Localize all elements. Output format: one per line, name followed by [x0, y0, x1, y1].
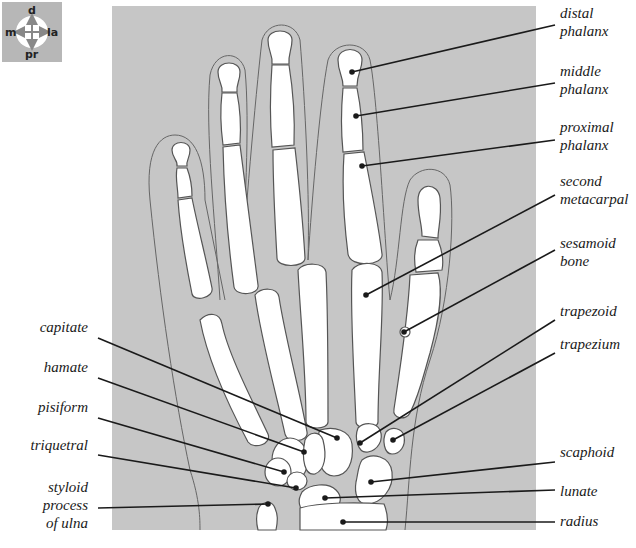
label-trapezium: trapezium [560, 335, 620, 353]
label-line: radius [560, 512, 598, 530]
label-styloid-process-of-ulna: styloid process of ulna [43, 478, 88, 532]
label-line: phalanx [560, 80, 608, 98]
label-line: hamate [44, 358, 88, 376]
label-line: second [560, 172, 628, 190]
label-line: lunate [560, 482, 598, 500]
label-second-metacarpal: second metacarpal [560, 172, 628, 208]
label-proximal-phalanx: proximal phalanx [560, 118, 614, 154]
label-lunate: lunate [560, 482, 598, 500]
label-middle-phalanx: middle phalanx [560, 62, 608, 98]
label-line: styloid [43, 478, 88, 496]
label-pisiform: pisiform [38, 398, 88, 416]
label-sesamoid-bone: sesamoid bone [560, 234, 616, 270]
label-line: triquetral [30, 436, 88, 454]
label-line: metacarpal [560, 190, 628, 208]
label-line: sesamoid [560, 234, 616, 252]
label-triquetral: triquetral [30, 436, 88, 454]
label-line: phalanx [560, 136, 614, 154]
label-trapezoid: trapezoid [560, 302, 617, 320]
label-line: proximal [560, 118, 614, 136]
label-line: of ulna [43, 514, 88, 532]
label-line: middle [560, 62, 608, 80]
label-hamate: hamate [44, 358, 88, 376]
label-line: trapezoid [560, 302, 617, 320]
label-capitate: capitate [40, 318, 88, 336]
label-line: distal [560, 4, 608, 22]
label-line: process [43, 496, 88, 514]
label-scaphoid: scaphoid [560, 443, 614, 461]
label-line: pisiform [38, 398, 88, 416]
label-line: scaphoid [560, 443, 614, 461]
hand-skeleton-illustration [0, 0, 636, 548]
label-line: phalanx [560, 22, 608, 40]
label-distal-phalanx: distal phalanx [560, 4, 608, 40]
label-line: bone [560, 252, 616, 270]
label-line: capitate [40, 318, 88, 336]
label-line: trapezium [560, 335, 620, 353]
label-radius: radius [560, 512, 598, 530]
